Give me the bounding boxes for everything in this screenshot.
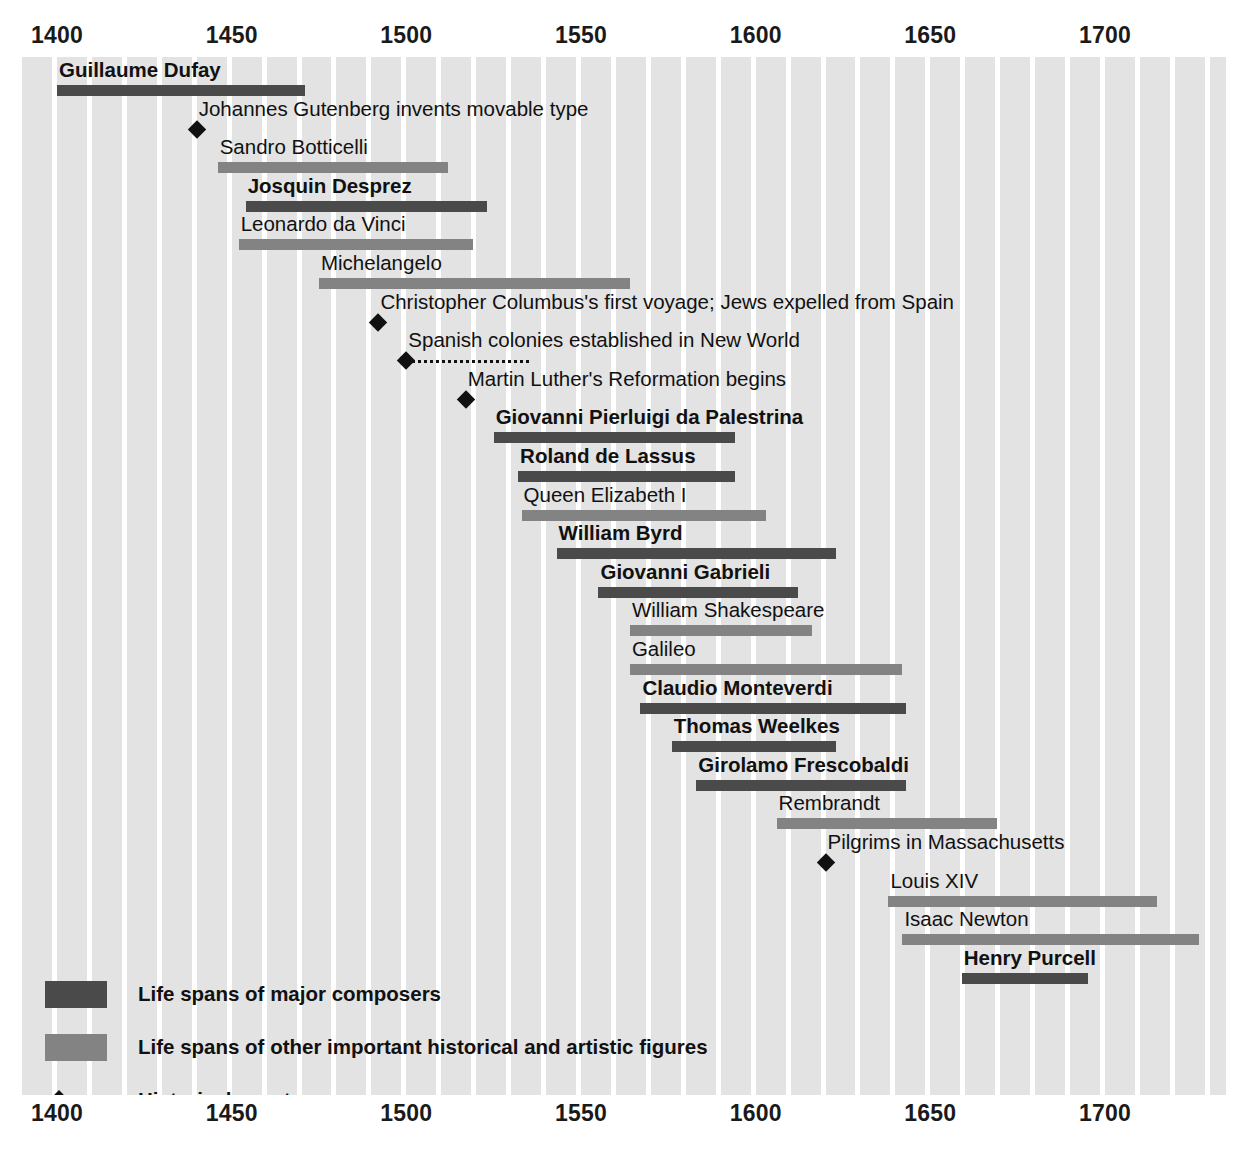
person-label: Girolamo Frescobaldi bbox=[698, 752, 909, 778]
legend-swatch-composer bbox=[45, 981, 107, 1008]
event-label: Martin Luther's Reformation begins bbox=[468, 366, 786, 392]
lifespan-bar bbox=[672, 741, 836, 752]
person-label: Giovanni Pierluigi da Palestrina bbox=[496, 404, 804, 430]
axis-tick-1700: 1700 bbox=[1079, 1100, 1131, 1127]
lifespan-bar bbox=[640, 703, 905, 714]
plot-area: Guillaume DufayJohannes Gutenberg invent… bbox=[0, 57, 1246, 1095]
lifespan-bar bbox=[57, 85, 305, 96]
event-label: Johannes Gutenberg invents movable type bbox=[199, 96, 589, 122]
person-label: Sandro Botticelli bbox=[220, 134, 368, 160]
legend-item: Life spans of other important historical… bbox=[0, 1030, 1246, 1070]
person-label: William Byrd bbox=[559, 520, 683, 546]
axis-tick-1500: 1500 bbox=[380, 22, 432, 49]
axis-tick-1550: 1550 bbox=[555, 1100, 607, 1127]
person-label: Rembrandt bbox=[779, 790, 880, 816]
event-label: Pilgrims in Massachusetts bbox=[828, 829, 1065, 855]
axis-tick-1400: 1400 bbox=[31, 22, 83, 49]
person-label: Roland de Lassus bbox=[520, 443, 695, 469]
axis-tick-1400: 1400 bbox=[31, 1100, 83, 1127]
axis-tick-1550: 1550 bbox=[555, 22, 607, 49]
axis-tick-1450: 1450 bbox=[206, 1100, 258, 1127]
axis-tick-1650: 1650 bbox=[904, 1100, 956, 1127]
axis-tick-1600: 1600 bbox=[730, 1100, 782, 1127]
legend-event-diamond-icon bbox=[49, 1090, 69, 1095]
event-label: Spanish colonies established in New Worl… bbox=[408, 327, 800, 353]
lifespan-bar bbox=[494, 432, 735, 443]
person-label: Giovanni Gabrieli bbox=[600, 559, 770, 585]
person-label: Galileo bbox=[632, 636, 696, 662]
axis-tick-1600: 1600 bbox=[730, 22, 782, 49]
axis-tick-1700: 1700 bbox=[1079, 22, 1131, 49]
axis-bottom: 1400145015001550160016501700 bbox=[0, 1100, 1246, 1130]
legend-item: Life spans of major composers bbox=[0, 977, 1246, 1017]
person-label: William Shakespeare bbox=[632, 597, 825, 623]
lifespan-bar bbox=[902, 934, 1199, 945]
person-label: Isaac Newton bbox=[904, 906, 1028, 932]
legend-item: Historical events bbox=[0, 1083, 1246, 1095]
person-label: Claudio Monteverdi bbox=[642, 675, 832, 701]
lifespan-bar bbox=[218, 162, 449, 173]
axis-tick-1450: 1450 bbox=[206, 22, 258, 49]
lifespan-bar bbox=[598, 587, 797, 598]
person-label: Louis XIV bbox=[890, 868, 978, 894]
event-dotted-line bbox=[406, 360, 528, 363]
lifespan-bar bbox=[696, 780, 906, 791]
lifespan-bar bbox=[888, 896, 1157, 907]
person-label: Henry Purcell bbox=[964, 945, 1096, 971]
person-label: Guillaume Dufay bbox=[59, 57, 221, 83]
lifespan-bar bbox=[239, 239, 473, 250]
legend-label: Life spans of other important historical… bbox=[138, 1034, 708, 1060]
lifespan-bar bbox=[630, 664, 902, 675]
event-label: Christopher Columbus's first voyage; Jew… bbox=[380, 289, 954, 315]
person-label: Leonardo da Vinci bbox=[241, 211, 406, 237]
lifespan-bar bbox=[557, 548, 836, 559]
axis-tick-1500: 1500 bbox=[380, 1100, 432, 1127]
person-label: Queen Elizabeth I bbox=[524, 482, 687, 508]
lifespan-bar bbox=[630, 625, 812, 636]
person-label: Michelangelo bbox=[321, 250, 442, 276]
legend-label: Historical events bbox=[138, 1087, 302, 1095]
lifespan-bar bbox=[246, 201, 487, 212]
axis-top: 1400145015001550160016501700 bbox=[0, 22, 1246, 52]
lifespan-bar bbox=[522, 510, 767, 521]
lifespan-bar bbox=[777, 818, 997, 829]
lifespan-bar bbox=[518, 471, 735, 482]
timeline-chart: 1400145015001550160016501700 Guillaume D… bbox=[0, 0, 1246, 1161]
person-label: Josquin Desprez bbox=[248, 173, 412, 199]
axis-tick-1650: 1650 bbox=[904, 22, 956, 49]
person-label: Thomas Weelkes bbox=[674, 713, 840, 739]
legend-swatch-figure bbox=[45, 1034, 107, 1061]
lifespan-bar bbox=[319, 278, 630, 289]
legend-label: Life spans of major composers bbox=[138, 981, 441, 1007]
